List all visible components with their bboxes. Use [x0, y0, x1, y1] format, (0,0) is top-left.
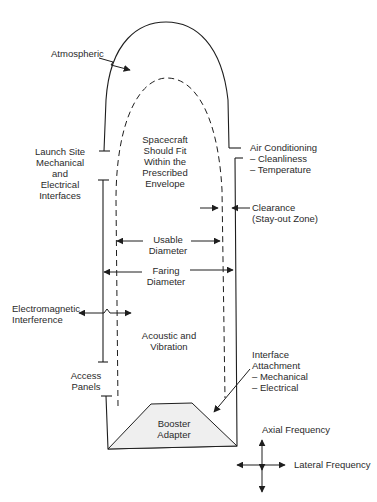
label-axial-frequency: Axial Frequency [262, 424, 330, 435]
label-booster-adapter: Booster Adapter [146, 418, 202, 440]
label-usable-diameter: Usable Diameter [138, 234, 198, 256]
label-clearance: Clearance (Stay-out Zone) [252, 202, 318, 224]
label-acoustic: Acoustic and Vibration [136, 330, 202, 352]
label-interface-attachment: Interface Attachment – Mechanical – Elec… [252, 349, 308, 393]
label-atmospheric: Atmospheric [51, 48, 104, 59]
label-air-conditioning: Air Conditioning – Cleanliness – Tempera… [250, 142, 317, 175]
label-launch-site: Launch Site Mechanical and Electrical In… [22, 146, 98, 201]
label-faring-diameter: Faring Diameter [136, 265, 196, 287]
label-lateral-frequency: Lateral Frequency [294, 459, 371, 470]
label-access-panels: Access Panels [66, 370, 106, 392]
label-electromagnetic: Electromagnetic Interference [12, 303, 80, 325]
label-envelope: Spacecraft Should Fit Within the Prescri… [134, 134, 196, 189]
electromagnetic-arrow [79, 309, 131, 313]
interface-attachment-arrow [214, 369, 250, 412]
